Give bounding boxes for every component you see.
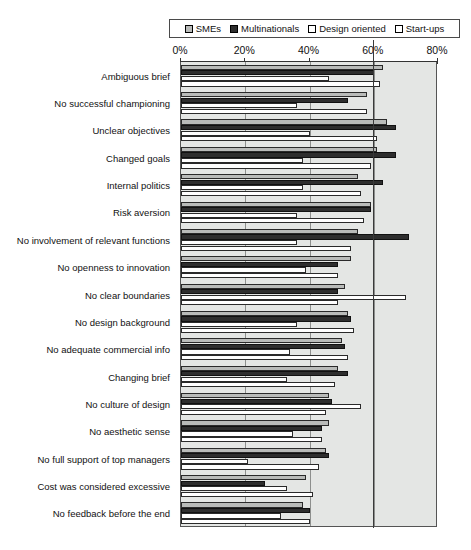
bar-design <box>181 131 310 136</box>
legend-label-multinationals: Multinationals <box>241 24 299 34</box>
bar-multinationals <box>181 289 338 294</box>
bar-group <box>181 144 436 171</box>
bar-startups <box>181 163 371 168</box>
bar-smes <box>181 420 329 425</box>
bar-design <box>181 213 297 218</box>
bar-smes <box>181 119 387 124</box>
bar-design <box>181 349 290 354</box>
bar-design <box>181 103 297 108</box>
bar-rows <box>181 62 436 526</box>
x-tickmark-80 <box>437 58 438 64</box>
category-label: No full support of top managers <box>37 453 170 464</box>
bar-design <box>181 431 293 436</box>
bar-multinationals <box>181 508 310 513</box>
bar-group <box>181 171 436 198</box>
bar-startups <box>181 273 338 278</box>
plot-area <box>180 62 437 527</box>
bar-multinationals <box>181 344 345 349</box>
bar-smes <box>181 502 303 507</box>
category-label: Risk aversion <box>113 207 170 218</box>
legend-swatch-start-ups <box>395 25 403 33</box>
bar-smes <box>181 284 345 289</box>
category-label: No successful championing <box>54 98 170 109</box>
legend-label-smes: SMEs <box>196 24 221 34</box>
category-label: Cost was considered excessive <box>37 480 170 491</box>
legend-label-start-ups: Start-ups <box>406 24 445 34</box>
bar-group <box>181 308 436 335</box>
legend-item-design-oriented: Design oriented <box>308 24 386 34</box>
bar-startups <box>181 492 313 497</box>
bar-smes <box>181 366 338 371</box>
bar-multinationals <box>181 180 383 185</box>
x-tick-label-0: 0% <box>172 44 187 56</box>
bar-group <box>181 253 436 280</box>
bar-smes <box>181 311 348 316</box>
bar-group <box>181 226 436 253</box>
bar-multinationals <box>181 399 332 404</box>
bar-smes <box>181 147 377 152</box>
bar-startups <box>181 410 326 415</box>
bar-group <box>181 500 436 527</box>
legend-swatch-design-oriented <box>308 25 316 33</box>
bar-smes <box>181 92 367 97</box>
category-label: Internal politics <box>107 180 170 191</box>
bar-multinationals <box>181 481 265 486</box>
bar-multinationals <box>181 426 322 431</box>
bar-startups <box>181 519 310 524</box>
bar-design <box>181 322 297 327</box>
category-label: No adequate commercial info <box>46 344 170 355</box>
bar-smes <box>181 202 371 207</box>
bar-startups <box>181 355 348 360</box>
bar-smes <box>181 174 358 179</box>
category-label: No culture of design <box>86 398 171 409</box>
bar-startups <box>181 109 367 114</box>
bar-design <box>181 267 306 272</box>
bar-startups <box>181 191 361 196</box>
y-axis-category-labels: Ambiguous briefNo successful championing… <box>0 62 174 527</box>
bar-multinationals <box>181 207 371 212</box>
legend-label-design-oriented: Design oriented <box>319 24 386 34</box>
category-label: Unclear objectives <box>92 125 170 136</box>
chart-legend: SMEs Multinationals Design oriented Star… <box>169 19 460 38</box>
bar-multinationals <box>181 98 348 103</box>
bar-design <box>181 240 297 245</box>
bar-design <box>181 185 303 190</box>
category-label: Ambiguous brief <box>101 70 170 81</box>
bar-design <box>181 404 361 409</box>
bar-group <box>181 445 436 472</box>
bar-multinationals <box>181 262 338 267</box>
bar-chart: SMEs Multinationals Design oriented Star… <box>0 0 471 550</box>
category-label: No involvement of relevant functions <box>17 234 170 245</box>
legend-swatch-smes <box>185 25 193 33</box>
bar-group <box>181 89 436 116</box>
bar-startups <box>181 437 322 442</box>
bar-multinationals <box>181 316 351 321</box>
legend-item-smes: SMEs <box>185 24 221 34</box>
bar-startups <box>181 136 377 141</box>
bar-design <box>181 513 281 518</box>
bar-startups <box>181 246 351 251</box>
bar-design <box>181 486 287 491</box>
category-label: Changed goals <box>106 152 170 163</box>
bar-group <box>181 281 436 308</box>
bar-multinationals <box>181 152 396 157</box>
category-label: No design background <box>75 316 170 327</box>
bar-startups <box>181 300 338 305</box>
bar-group <box>181 117 436 144</box>
bar-multinationals <box>181 234 409 239</box>
bar-startups <box>181 81 380 86</box>
legend-item-start-ups: Start-ups <box>395 24 445 34</box>
bar-smes <box>181 229 358 234</box>
x-tick-label-40: 40% <box>298 44 319 56</box>
bar-multinationals <box>181 70 374 75</box>
bar-startups <box>181 382 335 387</box>
bar-startups <box>181 328 354 333</box>
bar-group <box>181 336 436 363</box>
x-tick-label-80: 80% <box>426 44 447 56</box>
bar-startups <box>181 464 319 469</box>
bar-smes <box>181 256 351 261</box>
category-label: No clear boundaries <box>85 289 170 300</box>
legend-swatch-multinationals <box>230 25 238 33</box>
x-axis-tick-labels: 0%20%40%60%80% <box>0 44 471 58</box>
bar-group <box>181 390 436 417</box>
